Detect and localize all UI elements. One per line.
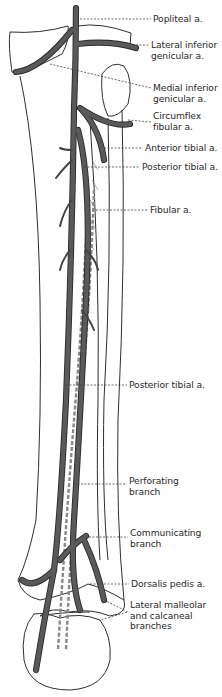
label-dorsalis-pedis: Dorsalis pedis a.	[131, 579, 205, 590]
label-text: Medial inferior	[153, 83, 218, 94]
label-medial-inferior-genicular: Medial inferior genicular a.	[153, 83, 218, 104]
label-text: Lateral inferior	[151, 40, 217, 51]
label-popliteal: Popliteal a.	[153, 14, 202, 25]
label-posterior-tibial-lower: Posterior tibial a.	[129, 380, 205, 391]
label-text: Circumflex	[153, 111, 201, 122]
label-fibular: Fibular a.	[150, 205, 191, 216]
leg-artery-illustration	[0, 0, 222, 697]
label-text: Popliteal a.	[153, 14, 202, 25]
label-anterior-tibial: Anterior tibial a.	[145, 143, 217, 154]
label-communicating-branch: Communicating branch	[130, 528, 201, 549]
label-text: genicular a.	[151, 51, 217, 62]
label-text: fibular a.	[153, 122, 201, 133]
label-text: Perforating	[129, 476, 179, 487]
label-text: genicular a.	[153, 94, 218, 105]
label-text: Fibular a.	[150, 205, 191, 216]
label-perforating-branch: Perforating branch	[129, 476, 179, 497]
label-text: Posterior tibial a.	[142, 162, 218, 173]
label-text: branches	[130, 621, 206, 632]
label-circumflex-fibular: Circumflex fibular a.	[153, 111, 201, 132]
label-text: Lateral malleolar	[130, 600, 206, 611]
label-text: Anterior tibial a.	[145, 143, 217, 154]
label-text: branch	[130, 539, 201, 550]
label-text: branch	[129, 487, 179, 498]
label-text: Dorsalis pedis a.	[131, 579, 205, 590]
label-lateral-inferior-genicular: Lateral inferior genicular a.	[151, 40, 217, 61]
arteries	[16, 8, 136, 670]
label-lateral-malleolar-calcaneal: Lateral malleolar and calcaneal branches	[130, 600, 206, 632]
label-posterior-tibial-upper: Posterior tibial a.	[142, 162, 218, 173]
label-text: Posterior tibial a.	[129, 380, 205, 391]
label-text: Communicating	[130, 528, 201, 539]
